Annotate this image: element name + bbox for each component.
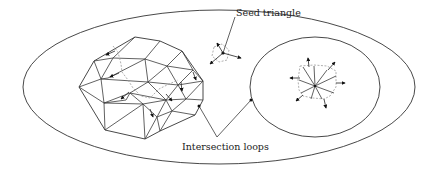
seed-triangle-label: Seed triangle: [236, 7, 301, 18]
seed-triangle-group: Seed triangle: [210, 7, 301, 64]
radial-fan: [299, 66, 336, 99]
inner-loop: [250, 37, 380, 137]
diagram-canvas: Seed triangle In: [0, 0, 434, 172]
mesh-edges: [79, 37, 203, 139]
advancing-front: [113, 46, 178, 98]
intersection-loops-annotation: Intersection loops: [182, 99, 269, 153]
meshed-region: [79, 37, 203, 139]
intersection-loops-label: Intersection loops: [182, 141, 269, 152]
